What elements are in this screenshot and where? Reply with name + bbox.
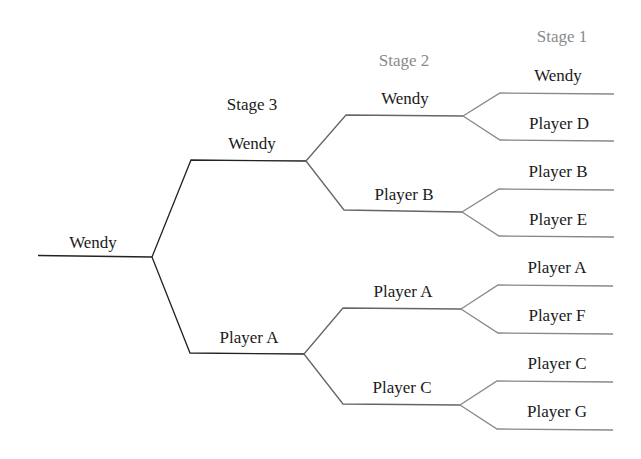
stage1-s7-label: Player C — [527, 354, 586, 373]
stage2-m3-label: Player A — [373, 282, 433, 301]
stage1-s5-label: Player A — [527, 258, 587, 277]
stage2-m2-label: Player B — [374, 185, 433, 204]
champion-line — [38, 256, 152, 258]
stage1-s1-line — [463, 93, 614, 116]
stage1-s4-label: Player E — [529, 210, 587, 229]
champion-label: Wendy — [69, 233, 117, 252]
stage3-bottom-label: Player A — [219, 328, 279, 347]
stage3-top-label: Wendy — [228, 134, 276, 153]
stage1-s8-label: Player G — [527, 402, 587, 421]
stage1-s1-label: Wendy — [534, 66, 582, 85]
tournament-bracket: Stage 3 Stage 2 Stage 1 Wendy Wendy Play… — [0, 0, 641, 459]
stage1-header: Stage 1 — [537, 27, 588, 46]
stage1-s2-label: Player D — [529, 114, 589, 133]
stage1-s6-label: Player F — [528, 306, 585, 325]
stage2-header: Stage 2 — [379, 51, 430, 70]
stage3-header: Stage 3 — [227, 95, 278, 114]
stage2-m4-label: Player C — [372, 378, 431, 397]
stage3-top-line — [152, 160, 306, 257]
stage1-s3-line — [462, 189, 614, 212]
stage2-m1-line — [306, 115, 463, 161]
stage1-s3-label: Player B — [528, 162, 587, 181]
stage2-m3-line — [304, 308, 461, 354]
stage2-m1-label: Wendy — [381, 89, 429, 108]
